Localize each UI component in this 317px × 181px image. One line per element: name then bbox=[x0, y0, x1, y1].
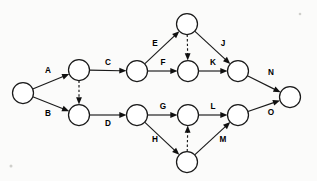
lower-mid-node[interactable] bbox=[127, 105, 148, 126]
upper-left-node[interactable] bbox=[69, 60, 90, 81]
canvas-background bbox=[0, 0, 317, 181]
end-node[interactable] bbox=[280, 87, 301, 108]
edge-j-label: J bbox=[221, 39, 226, 48]
lower-center-node[interactable] bbox=[178, 105, 199, 126]
edge-e-label: E bbox=[152, 39, 158, 48]
edge-g-label: G bbox=[160, 102, 166, 111]
lower-right-node[interactable] bbox=[228, 105, 249, 126]
upper-mid-node[interactable] bbox=[127, 61, 148, 82]
upper-center-node[interactable] bbox=[178, 61, 199, 82]
lower-left-node[interactable] bbox=[69, 105, 90, 126]
paper-speck bbox=[10, 165, 13, 168]
edge-d-label: D bbox=[105, 119, 111, 128]
activity-network-diagram: ABCDEFJKNGHMLO bbox=[0, 0, 317, 181]
diagram-page: ABCDEFJKNGHMLO bbox=[0, 0, 317, 181]
edge-l-label: L bbox=[210, 102, 215, 111]
edge-f-label: F bbox=[160, 58, 165, 67]
lower-apex-node[interactable] bbox=[177, 152, 198, 173]
paper-speck bbox=[299, 13, 302, 16]
edge-n-label: N bbox=[268, 68, 274, 77]
edge-o-label: O bbox=[268, 108, 275, 117]
edge-c-label: C bbox=[105, 58, 111, 67]
upper-apex-node[interactable] bbox=[177, 14, 198, 35]
edge-c bbox=[89, 70, 120, 71]
edge-a-label: A bbox=[45, 66, 51, 75]
upper-right-node[interactable] bbox=[228, 61, 249, 82]
edge-m-label: M bbox=[220, 135, 227, 144]
edge-h-label: H bbox=[152, 135, 158, 144]
start-node[interactable] bbox=[13, 83, 34, 104]
edge-k-label: K bbox=[210, 58, 216, 67]
edge-b-label: B bbox=[45, 109, 51, 118]
